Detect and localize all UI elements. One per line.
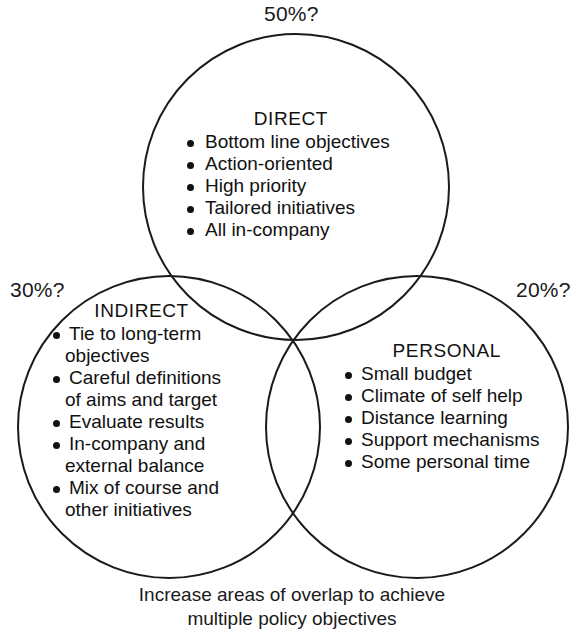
bullet-dot-icon	[187, 162, 194, 169]
group-title-direct: DIRECT	[192, 108, 390, 130]
list-item-text: Climate of self help	[361, 385, 523, 406]
group-indirect: INDIRECT Tie to long-term objectives Car…	[52, 300, 221, 521]
percent-label-direct: 50%?	[264, 2, 319, 26]
list-item: Small budget	[344, 363, 539, 385]
list-item-text: Bottom line objectives	[205, 131, 390, 152]
list-item: Distance learning	[344, 407, 539, 429]
list-item-text: Tie to long-term	[69, 323, 201, 344]
bullet-dot-icon	[345, 394, 352, 401]
list-item: Bottom line objectives	[186, 131, 390, 153]
list-item-text: Support mechanisms	[361, 429, 539, 450]
list-item: Action-oriented	[186, 153, 390, 175]
list-item-text: Evaluate results	[69, 411, 204, 432]
list-item-text-cont: objectives	[65, 345, 221, 367]
list-item-text: High priority	[205, 175, 306, 196]
diagram-caption: Increase areas of overlap to achieve mul…	[0, 583, 584, 631]
list-item: Climate of self help	[344, 385, 539, 407]
bullet-dot-icon	[53, 442, 60, 449]
bullet-dot-icon	[345, 416, 352, 423]
list-item: Tie to long-term objectives	[52, 323, 221, 367]
percent-label-indirect: 30%?	[10, 278, 65, 302]
list-item: High priority	[186, 175, 390, 197]
bullet-dot-icon	[53, 332, 60, 339]
list-item-text: In-company and	[69, 433, 205, 454]
bullet-dot-icon	[53, 486, 60, 493]
caption-line-2: multiple policy objectives	[0, 607, 584, 631]
list-item-text-cont: other initiatives	[65, 499, 221, 521]
list-item-text: Action-oriented	[205, 153, 333, 174]
list-item: In-company and external balance	[52, 433, 221, 477]
group-personal: PERSONAL Small budget Climate of self he…	[344, 340, 539, 473]
group-title-indirect: INDIRECT	[62, 300, 221, 322]
list-item-text: All in-company	[205, 219, 330, 240]
bullet-dot-icon	[187, 228, 194, 235]
bullet-dot-icon	[345, 460, 352, 467]
list-item-text: Distance learning	[361, 407, 508, 428]
bullet-dot-icon	[345, 372, 352, 379]
list-item: Evaluate results	[52, 411, 221, 433]
bullet-dot-icon	[345, 438, 352, 445]
list-item-text: Careful definitions	[69, 367, 221, 388]
list-item-text-cont: of aims and target	[65, 389, 221, 411]
list-item: Support mechanisms	[344, 429, 539, 451]
list-item-text: Small budget	[361, 363, 472, 384]
list-item: All in-company	[186, 219, 390, 241]
bullet-dot-icon	[187, 206, 194, 213]
bullet-list-direct: Bottom line objectives Action-oriented H…	[186, 131, 390, 241]
list-item-text: Mix of course and	[69, 477, 219, 498]
list-item: Careful definitions of aims and target	[52, 367, 221, 411]
list-item-text: Some personal time	[361, 451, 530, 472]
bullet-list-indirect: Tie to long-term objectives Careful defi…	[52, 323, 221, 521]
bullet-dot-icon	[187, 140, 194, 147]
bullet-dot-icon	[187, 184, 194, 191]
group-direct: DIRECT Bottom line objectives Action-ori…	[186, 108, 390, 241]
bullet-list-personal: Small budget Climate of self help Distan…	[344, 363, 539, 473]
list-item-text: Tailored initiatives	[205, 197, 355, 218]
list-item: Mix of course and other initiatives	[52, 477, 221, 521]
bullet-dot-icon	[53, 376, 60, 383]
group-title-personal: PERSONAL	[354, 340, 539, 362]
list-item: Tailored initiatives	[186, 197, 390, 219]
list-item: Some personal time	[344, 451, 539, 473]
percent-label-personal: 20%?	[516, 278, 571, 302]
list-item-text-cont: external balance	[65, 455, 221, 477]
bullet-dot-icon	[53, 420, 60, 427]
caption-line-1: Increase areas of overlap to achieve	[0, 583, 584, 607]
